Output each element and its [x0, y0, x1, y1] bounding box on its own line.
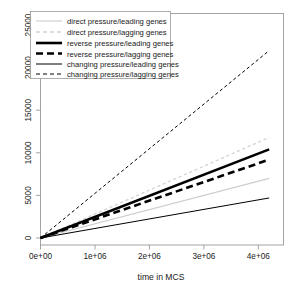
legend: direct pressure/leading genes direct pre…	[31, 12, 180, 80]
series-line	[41, 149, 270, 238]
y-tick-label: 0	[24, 235, 33, 240]
series-line	[41, 198, 270, 238]
line-chart: 0 5000 10000 15000 20000 25000 0e+00 1e+…	[0, 0, 295, 293]
legend-label: reverse pressure/lagging genes	[67, 50, 174, 59]
x-tick-label: 4e+06	[247, 252, 270, 261]
legend-label: changing pressure/leading genes	[67, 60, 179, 69]
legend-label: direct pressure/lagging genes	[67, 28, 167, 37]
x-tick-label: 3e+06	[192, 252, 215, 261]
legend-label: changing pressure/lagging genes	[67, 70, 179, 79]
y-tick-label: 5000	[24, 186, 33, 205]
y-tick-label: 15000	[24, 98, 33, 121]
x-axis: 0e+00 1e+06 2e+06 3e+06 4e+06 time in MC…	[29, 245, 270, 282]
legend-label: direct pressure/leading genes	[67, 17, 167, 26]
x-axis-ticks	[41, 245, 259, 250]
x-tick-label: 1e+06	[84, 252, 107, 261]
series-line	[41, 160, 270, 238]
y-tick-label: 10000	[24, 141, 33, 164]
legend-label: reverse pressure/leading genes	[67, 39, 174, 48]
series-line	[41, 178, 270, 238]
x-axis-title: time in MCS	[138, 272, 185, 282]
x-tick-label: 2e+06	[138, 252, 161, 261]
x-tick-label: 0e+00	[29, 252, 52, 261]
